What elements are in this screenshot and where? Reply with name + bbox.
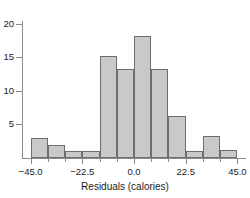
histogram-bar xyxy=(100,56,117,158)
histogram-bar xyxy=(82,151,99,158)
y-axis-tick xyxy=(16,91,23,92)
y-axis-tick-label: 20 xyxy=(0,19,14,29)
histogram-bar xyxy=(151,69,168,158)
histogram-bar xyxy=(168,116,185,158)
histogram-bar xyxy=(65,151,82,158)
histogram-bar xyxy=(186,151,203,158)
y-axis-tick-label: 15 xyxy=(0,52,14,62)
y-axis-tick-label: 5 xyxy=(0,119,14,129)
x-axis-major-tick xyxy=(186,158,187,164)
x-axis-major-tick xyxy=(134,158,135,164)
histogram-figure: 5101520 −45.0−22.50.022.545.0 Residuals … xyxy=(0,0,250,198)
x-axis-minor-tick xyxy=(168,158,169,162)
x-axis-minor-tick xyxy=(100,158,101,162)
histogram-bar xyxy=(31,138,48,158)
histogram-bar xyxy=(203,136,220,158)
x-axis-minor-tick xyxy=(151,158,152,162)
histogram-bar xyxy=(48,145,65,158)
plot-area: 5101520 −45.0−22.50.022.545.0 Residuals … xyxy=(0,0,250,198)
x-axis-major-tick xyxy=(237,158,238,164)
x-axis-tick-label: 45.0 xyxy=(214,167,250,177)
y-axis-tick xyxy=(16,57,23,58)
x-axis-tick-label: −22.5 xyxy=(59,167,105,177)
histogram-bar xyxy=(134,36,151,158)
x-axis-minor-tick xyxy=(65,158,66,162)
x-axis-tick-label: 22.5 xyxy=(163,167,209,177)
x-axis-title: Residuals (calories) xyxy=(0,181,250,192)
x-axis-minor-tick xyxy=(203,158,204,162)
histogram-bar xyxy=(117,69,134,158)
x-axis-minor-tick xyxy=(220,158,221,162)
y-axis-tick xyxy=(16,24,23,25)
x-axis-minor-tick xyxy=(117,158,118,162)
histogram-bar xyxy=(220,150,237,158)
x-axis-tick-label: −45.0 xyxy=(8,167,54,177)
x-axis-minor-tick xyxy=(48,158,49,162)
x-axis-major-tick xyxy=(31,158,32,164)
x-axis-tick-label: 0.0 xyxy=(111,167,157,177)
x-axis-major-tick xyxy=(82,158,83,164)
y-axis-tick-label: 10 xyxy=(0,86,14,96)
y-axis-tick xyxy=(16,124,23,125)
